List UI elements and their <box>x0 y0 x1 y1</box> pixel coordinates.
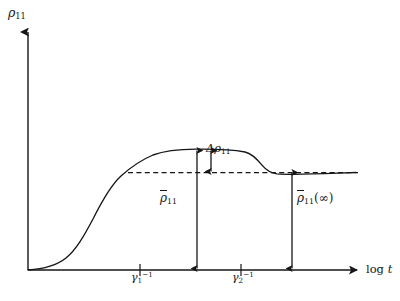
tick-label-gamma-1: γ1−1 <box>131 272 153 283</box>
tick-label-gamma-2: γ2−1 <box>232 272 254 283</box>
delta-rho-11-label: Δρ11 <box>206 143 231 155</box>
tick-label-gamma-2-symbol: γ <box>232 271 239 284</box>
x-axis-label-var: t <box>388 262 393 276</box>
rho-11-curve <box>28 149 356 270</box>
rho-bar-11-label: ρ11 <box>160 190 177 204</box>
tick-label-gamma-2-superscript: −1 <box>243 270 254 279</box>
delta-rho-11-symbol: Δρ <box>206 141 221 155</box>
y-axis-label: ρ11 <box>8 7 26 20</box>
x-axis-label: log t <box>366 264 392 276</box>
delta-rho-11-subscript: 11 <box>221 147 231 156</box>
rho-bar-11-infinity-argument: (∞) <box>314 191 333 205</box>
rho-bar-11-infinity-label: ρ11(∞) <box>297 190 333 204</box>
y-axis-label-subscript: 11 <box>15 11 25 21</box>
tick-label-gamma-1-symbol: γ <box>131 271 138 284</box>
tick-label-gamma-1-superscript: −1 <box>142 270 153 279</box>
x-axis-label-log: log <box>366 262 384 276</box>
rho-bar-11-symbol: ρ <box>160 191 167 205</box>
figure-container: ρ11 log t γ1−1 γ2−1 Δρ11 ρ11 ρ11(∞) <box>0 0 400 301</box>
rho-bar-11-infinity-symbol: ρ <box>297 191 304 205</box>
plot-canvas <box>0 0 400 301</box>
rho-bar-11-infinity-subscript: 11 <box>304 197 314 206</box>
rho-bar-11-subscript: 11 <box>167 197 177 206</box>
